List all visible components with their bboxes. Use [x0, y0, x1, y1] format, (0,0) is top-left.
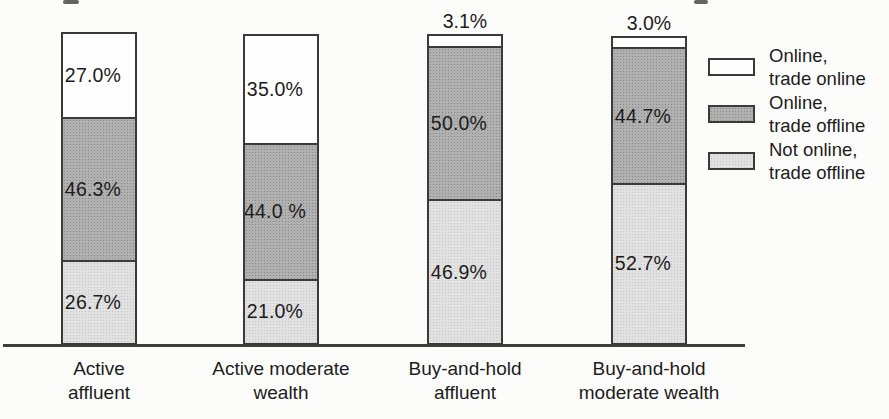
- bar-active-moderate-wealth: 35.0% 44.0 % 21.0%: [243, 34, 319, 345]
- bar-segment-online-trade-online: 27.0%: [63, 34, 135, 117]
- bar-segment-not-online-trade-offline: 26.7%: [63, 260, 135, 343]
- bar-segment-online-trade-offline: 44.7%: [613, 47, 685, 183]
- value-label: 44.0 %: [244, 200, 306, 223]
- value-label: 26.7%: [65, 291, 121, 314]
- value-label-above-bar: 3.1%: [409, 10, 521, 33]
- value-label: 21.0%: [247, 300, 303, 323]
- legend-label-line: trade offline: [769, 114, 865, 137]
- value-label: 27.0%: [65, 64, 121, 87]
- value-label: 35.0%: [247, 78, 303, 101]
- bar-segment-not-online-trade-offline: 21.0%: [245, 279, 317, 343]
- legend-swatch-online-trade-online: [708, 58, 755, 76]
- category-label-line: Buy-and-hold: [534, 357, 764, 381]
- value-label: 44.7%: [615, 105, 671, 128]
- cropped-title-remnant: [694, 0, 708, 4]
- category-label-line: moderate wealth: [534, 381, 764, 405]
- legend-label: Online, trade offline: [769, 91, 865, 137]
- value-label: 46.3%: [65, 178, 121, 201]
- cropped-title-remnant: [63, 0, 79, 4]
- legend-swatch-not-online-trade-offline: [708, 152, 755, 170]
- legend-label: Online, trade online: [769, 44, 866, 90]
- legend: Online, trade online Online, trade offli…: [708, 44, 866, 184]
- category-label-buy-and-hold-moderate-wealth: Buy-and-hold moderate wealth: [534, 357, 764, 405]
- legend-label-line: Online,: [769, 91, 865, 114]
- chart-canvas: 27.0% 46.3% 26.7% 35.0% 44.0 % 21.0% 3.1…: [0, 0, 889, 419]
- bar-segment-online-trade-offline: 44.0 %: [245, 143, 317, 278]
- legend-item-online-trade-online: Online, trade online: [708, 44, 866, 90]
- legend-label-line: Online,: [769, 44, 866, 67]
- bar-buy-and-hold-affluent: 3.1% 50.0% 46.9%: [427, 34, 503, 345]
- value-label: 46.9%: [431, 261, 487, 284]
- legend-label-line: Not online,: [769, 138, 865, 161]
- legend-item-online-trade-offline: Online, trade offline: [708, 91, 866, 137]
- bar-segment-not-online-trade-offline: 52.7%: [613, 183, 685, 343]
- legend-label-line: trade online: [769, 67, 866, 90]
- legend-item-not-online-trade-offline: Not online, trade offline: [708, 138, 866, 184]
- legend-label: Not online, trade offline: [769, 138, 865, 184]
- bar-segment-online-trade-online: 35.0%: [245, 36, 317, 143]
- value-label: 50.0%: [431, 112, 487, 135]
- bar-active-affluent: 27.0% 46.3% 26.7%: [61, 32, 137, 345]
- bar-segment-online-trade-offline: 50.0%: [429, 46, 501, 200]
- legend-label-line: trade offline: [769, 161, 865, 184]
- bar-buy-and-hold-moderate-wealth: 3.0% 44.7% 52.7%: [611, 36, 687, 345]
- bar-segment-online-trade-online: [429, 36, 501, 46]
- bar-segment-not-online-trade-offline: 46.9%: [429, 199, 501, 343]
- value-label-above-bar: 3.0%: [593, 12, 705, 35]
- legend-swatch-online-trade-offline: [708, 105, 755, 123]
- bar-segment-online-trade-offline: 46.3%: [63, 117, 135, 260]
- value-label: 52.7%: [615, 252, 671, 275]
- bar-segment-online-trade-online: [613, 38, 685, 47]
